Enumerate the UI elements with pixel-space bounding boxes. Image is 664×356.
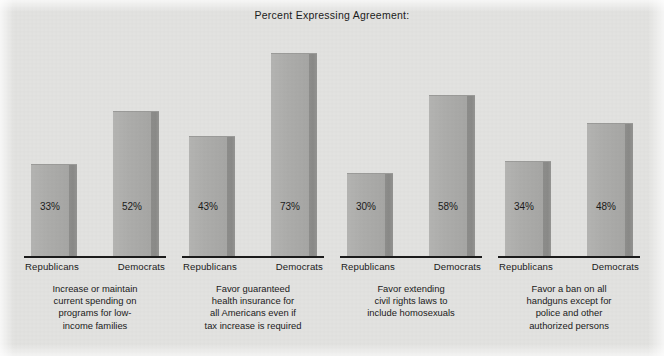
bar-democrats[interactable]: 48% — [587, 123, 633, 256]
bar-value-label: 30% — [347, 201, 385, 212]
series-label-democrats: Democrats — [592, 261, 639, 272]
bar-value-label: 58% — [429, 201, 467, 212]
bar-front-face — [587, 123, 625, 256]
bar-side-shadow — [69, 164, 77, 256]
bar-value-label: 73% — [271, 201, 309, 212]
bar-group-bars: 30%58% — [332, 28, 490, 256]
bar-top-edge — [347, 173, 393, 174]
bar-front-face — [429, 95, 467, 256]
series-label-republicans: Republicans — [341, 261, 395, 272]
bar-group: 43%73% — [174, 28, 332, 256]
bar-side-shadow — [467, 95, 475, 256]
bar-group-bars: 43%73% — [174, 28, 332, 256]
bar-column: 30% — [347, 173, 393, 256]
bar-group-axis: RepublicansDemocratsFavor guaranteedheal… — [174, 256, 332, 356]
bar-front-face — [271, 53, 309, 256]
caption-line: include homosexuals — [336, 307, 486, 319]
caption-line: authorized persons — [494, 320, 644, 332]
bar-side-shadow — [309, 53, 317, 256]
bar-democrats[interactable]: 52% — [113, 111, 159, 256]
group-caption: Favor extendingcivil rights laws toinclu… — [336, 283, 486, 320]
bar-front-face — [347, 173, 385, 256]
series-name-row: RepublicansDemocrats — [498, 261, 640, 272]
bar-side-shadow — [385, 173, 393, 256]
bar-group: 34%48% — [490, 28, 648, 256]
caption-line: all Americans even if — [178, 307, 328, 319]
series-label-democrats: Democrats — [434, 261, 481, 272]
bar-group-axis: RepublicansDemocratsFavor a ban on allha… — [490, 256, 648, 356]
bar-republicans[interactable]: 43% — [189, 136, 235, 256]
series-label-republicans: Republicans — [499, 261, 553, 272]
caption-line: Increase or maintain — [20, 283, 170, 295]
bar-top-edge — [271, 53, 317, 54]
bar-republicans[interactable]: 33% — [31, 164, 77, 256]
bar-value-label: 33% — [31, 201, 69, 212]
plot-area: 33%52%43%73%30%58%34%48% — [16, 28, 648, 256]
group-caption: Favor guaranteedhealth insurance forall … — [178, 283, 328, 333]
bar-column: 33% — [31, 164, 77, 256]
bar-column: 43% — [189, 136, 235, 256]
bar-column: 52% — [113, 111, 159, 256]
bar-column: 58% — [429, 95, 475, 256]
caption-line: tax increase is required — [178, 320, 328, 332]
bar-side-shadow — [227, 136, 235, 256]
bar-republicans[interactable]: 30% — [347, 173, 393, 256]
bar-republicans[interactable]: 34% — [505, 161, 551, 256]
axis-labels-area: RepublicansDemocratsIncrease or maintain… — [16, 256, 648, 356]
caption-line: Favor guaranteed — [178, 283, 328, 295]
caption-line: income families — [20, 320, 170, 332]
series-label-republicans: Republicans — [183, 261, 237, 272]
group-baseline — [340, 256, 482, 258]
series-label-democrats: Democrats — [276, 261, 323, 272]
series-name-row: RepublicansDemocrats — [24, 261, 166, 272]
bar-front-face — [113, 111, 151, 256]
caption-line: programs for low- — [20, 307, 170, 319]
bar-group-bars: 34%48% — [490, 28, 648, 256]
bar-top-edge — [189, 136, 235, 137]
group-baseline — [182, 256, 324, 258]
bar-side-shadow — [151, 111, 159, 256]
bar-group-bars: 33%52% — [16, 28, 174, 256]
bar-democrats[interactable]: 73% — [271, 53, 317, 256]
caption-line: Favor a ban on all — [494, 283, 644, 295]
series-label-republicans: Republicans — [25, 261, 79, 272]
caption-line: health insurance for — [178, 295, 328, 307]
bar-top-edge — [113, 111, 159, 112]
caption-line: police and other — [494, 307, 644, 319]
chart-figure: Percent Expressing Agreement: 33%52%43%7… — [0, 0, 664, 356]
series-label-democrats: Democrats — [118, 261, 165, 272]
group-baseline — [498, 256, 640, 258]
bar-group: 33%52% — [16, 28, 174, 256]
caption-line: civil rights laws to — [336, 295, 486, 307]
bar-value-label: 43% — [189, 201, 227, 212]
series-name-row: RepublicansDemocrats — [340, 261, 482, 272]
group-baseline — [24, 256, 166, 258]
bar-value-label: 34% — [505, 201, 543, 212]
bar-top-edge — [429, 95, 475, 96]
caption-line: Favor extending — [336, 283, 486, 295]
bar-column: 73% — [271, 53, 317, 256]
chart-title: Percent Expressing Agreement: — [0, 9, 664, 21]
group-caption: Favor a ban on allhandguns except forpol… — [494, 283, 644, 333]
bar-value-label: 48% — [587, 201, 625, 212]
bar-value-label: 52% — [113, 201, 151, 212]
bar-column: 48% — [587, 123, 633, 256]
group-caption: Increase or maintaincurrent spending onp… — [20, 283, 170, 333]
bar-top-edge — [587, 123, 633, 124]
bar-column: 34% — [505, 161, 551, 256]
bar-democrats[interactable]: 58% — [429, 95, 475, 256]
series-name-row: RepublicansDemocrats — [182, 261, 324, 272]
bar-group-axis: RepublicansDemocratsFavor extendingcivil… — [332, 256, 490, 356]
bar-side-shadow — [543, 161, 551, 256]
bar-side-shadow — [625, 123, 633, 256]
bar-group-axis: RepublicansDemocratsIncrease or maintain… — [16, 256, 174, 356]
bar-front-face — [189, 136, 227, 256]
caption-line: handguns except for — [494, 295, 644, 307]
bar-group: 30%58% — [332, 28, 490, 256]
bar-top-edge — [31, 164, 77, 165]
caption-line: current spending on — [20, 295, 170, 307]
bar-top-edge — [505, 161, 551, 162]
